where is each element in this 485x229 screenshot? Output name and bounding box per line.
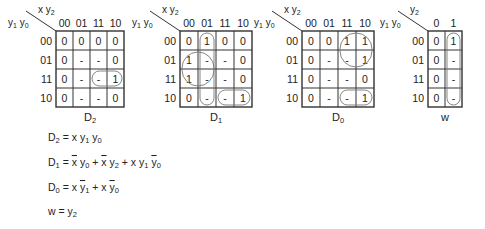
row-header: 10 xyxy=(40,92,52,104)
col-header: 11 xyxy=(220,17,231,29)
row-variable-label: y1 y0 xyxy=(254,17,275,29)
kmap-cell: - xyxy=(223,54,227,66)
kmap-cell: 0 xyxy=(96,35,102,47)
row-header: 00 xyxy=(286,35,298,47)
kmap-cell: 0 xyxy=(326,35,332,47)
kmap-cell: 0 xyxy=(308,73,314,85)
kmap-cell: 0 xyxy=(79,35,85,47)
kmap-cell: - xyxy=(80,54,84,66)
kmap-cell: - xyxy=(97,73,101,85)
row-header: 00 xyxy=(412,35,424,47)
kmap-cell: 0 xyxy=(62,35,68,47)
kmap-cell: 0 xyxy=(113,92,119,104)
kmap-cell: - xyxy=(205,92,209,104)
row-header: 01 xyxy=(164,54,176,66)
eq-d2: D2 = x y1 y0 xyxy=(48,131,102,145)
kmap-cell: - xyxy=(452,92,456,104)
col-variable-label: x y2 xyxy=(284,4,301,16)
kmap-title: D0 xyxy=(332,111,344,125)
kmap-title: D2 xyxy=(84,111,96,125)
col-header: 00 xyxy=(305,17,317,29)
kmap-title: D1 xyxy=(210,111,222,125)
col-variable-label: x y2 xyxy=(162,4,179,16)
kmap-diagram: x y2y1 y0000111100001111000000--00--10--… xyxy=(0,0,485,229)
kmap-cell: 0 xyxy=(434,92,440,104)
kmap-cell: - xyxy=(327,92,331,104)
kmap-cell: 1 xyxy=(186,73,192,85)
kmap-cell: 0 xyxy=(240,73,246,85)
row-header: 00 xyxy=(164,35,176,47)
col-header: 0 xyxy=(434,17,440,29)
kmap-cell: 1 xyxy=(344,35,350,47)
row-header: 11 xyxy=(41,73,52,85)
row-header: 11 xyxy=(413,73,424,85)
col-variable-label: x y2 xyxy=(38,4,55,16)
kmap-cell: 1 xyxy=(362,92,368,104)
kmap-cell: - xyxy=(97,54,101,66)
kmap-cell: 0 xyxy=(222,35,228,47)
row-header: 01 xyxy=(40,54,52,66)
kmap-cell: - xyxy=(97,92,101,104)
kmap-cell: 0 xyxy=(308,54,314,66)
row-header: 11 xyxy=(287,73,298,85)
row-variable-label: y1 y0 xyxy=(132,17,153,29)
kmap-cell: 1 xyxy=(240,92,246,104)
kmap-cell: 0 xyxy=(186,92,192,104)
col-header: 00 xyxy=(59,17,71,29)
kmap-cell: 1 xyxy=(204,35,210,47)
col-header: 11 xyxy=(93,17,104,29)
row-variable-label: y1 y0 xyxy=(380,17,401,29)
col-header: 10 xyxy=(237,17,249,29)
col-header: 10 xyxy=(359,17,371,29)
kmap-cell: 0 xyxy=(308,35,314,47)
kmap-cell: 0 xyxy=(62,92,68,104)
row-header: 01 xyxy=(412,54,424,66)
col-header: 11 xyxy=(342,17,353,29)
row-header: 01 xyxy=(286,54,298,66)
kmap-cell: 0 xyxy=(62,54,68,66)
kmap-cell: - xyxy=(80,92,84,104)
row-header: 10 xyxy=(412,92,424,104)
col-header: 00 xyxy=(183,17,195,29)
col-header: 10 xyxy=(110,17,122,29)
kmap-cell: 0 xyxy=(434,73,440,85)
col-variable-label: y2 xyxy=(410,4,419,16)
kmap-cell: 0 xyxy=(308,92,314,104)
kmap-cell: 0 xyxy=(62,73,68,85)
row-header: 00 xyxy=(40,35,52,47)
kmap-cell: 1 xyxy=(451,35,457,47)
kmap-cell: - xyxy=(345,92,349,104)
kmap-cell: - xyxy=(327,73,331,85)
kmap-title: w xyxy=(440,111,449,123)
col-header: 01 xyxy=(323,17,335,29)
kmap-D0: x y2y1 y0000111100001111000110--10--00--… xyxy=(254,4,374,125)
col-header: 01 xyxy=(76,17,88,29)
kmap-cell: 0 xyxy=(240,54,246,66)
col-header: 01 xyxy=(201,17,213,29)
kmap-D1: x y2y1 y0000111100001111001001--01--00--… xyxy=(132,4,252,125)
kmap-cell: 1 xyxy=(186,54,192,66)
kmap-cell: - xyxy=(345,73,349,85)
row-variable-label: y1 y0 xyxy=(8,17,29,29)
kmap-w: y2y1 y00100011110010-0-0-w xyxy=(380,4,462,123)
kmap-D2: x y2y1 y0000111100001111000000--00--10--… xyxy=(8,4,124,125)
kmap-cell: 0 xyxy=(434,54,440,66)
kmap-cell: 0 xyxy=(240,35,246,47)
kmap-cell: - xyxy=(452,54,456,66)
kmap-cell: 0 xyxy=(186,35,192,47)
row-header: 10 xyxy=(164,92,176,104)
col-header: 1 xyxy=(451,17,457,29)
kmap-cell: 0 xyxy=(434,35,440,47)
kmap-cell: 0 xyxy=(113,35,119,47)
eq-d0: D0 = x y1 + x y0 xyxy=(48,181,119,195)
row-header: 11 xyxy=(165,73,176,85)
eq-w: w = y2 xyxy=(47,205,77,219)
kmap-cell: 1 xyxy=(113,73,119,85)
kmap-cell: - xyxy=(223,92,227,104)
kmap-cell: - xyxy=(452,73,456,85)
kmap-cell: - xyxy=(327,54,331,66)
eq-d1: D1 = x y0 + x y2 + x y1 y0 xyxy=(48,156,161,170)
kmap-cell: - xyxy=(80,73,84,85)
kmap-cell: 0 xyxy=(362,73,368,85)
kmap-cell: 0 xyxy=(113,54,119,66)
